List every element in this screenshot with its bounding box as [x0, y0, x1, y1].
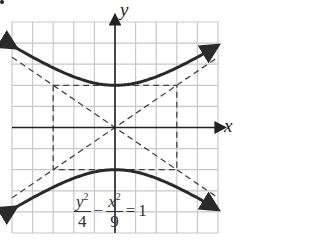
minus-operator: − [94, 201, 104, 221]
equation-rhs: 1 [138, 201, 147, 221]
fraction-x: x2 9 [106, 192, 123, 230]
x-axis-label: x [224, 115, 232, 137]
y-axis-label: y [120, 0, 128, 21]
equation-label: y2 4 − x2 9 = 1 [74, 192, 147, 230]
fraction-y: y2 4 [74, 192, 91, 230]
equals-operator: = [126, 201, 136, 221]
